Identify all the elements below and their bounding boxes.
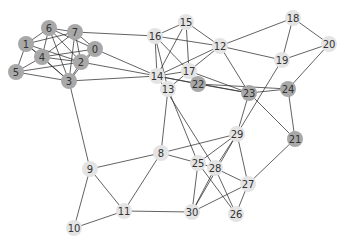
node-label: 22 <box>192 79 205 90</box>
node-3: 3 <box>61 73 77 89</box>
node-25: 25 <box>190 155 206 171</box>
node-1: 1 <box>18 36 34 52</box>
edge-13-25 <box>168 89 198 163</box>
node-label: 2 <box>78 57 84 68</box>
node-label: 0 <box>92 44 98 55</box>
node-label: 3 <box>66 76 72 87</box>
node-27: 27 <box>240 176 256 192</box>
edge-8-11 <box>124 153 161 211</box>
edge-23-21 <box>249 93 295 139</box>
node-17: 17 <box>181 63 197 79</box>
node-label: 30 <box>186 207 199 218</box>
edge-9-11 <box>90 169 124 211</box>
node-12: 12 <box>212 38 228 54</box>
node-26: 26 <box>228 206 244 222</box>
edge-2-14 <box>81 62 157 76</box>
edge-13-8 <box>161 89 168 153</box>
node-19: 19 <box>274 52 290 68</box>
node-4: 4 <box>34 49 50 65</box>
node-14: 14 <box>149 68 165 84</box>
node-label: 23 <box>243 88 256 99</box>
node-0: 0 <box>87 41 103 57</box>
node-13: 13 <box>160 81 176 97</box>
node-label: 1 <box>23 39 29 50</box>
node-30: 30 <box>184 204 200 220</box>
node-18: 18 <box>285 10 301 26</box>
node-label: 13 <box>162 84 175 95</box>
edge-12-18 <box>220 18 293 46</box>
node-label: 18 <box>287 13 300 24</box>
node-21: 21 <box>287 131 303 147</box>
node-10: 10 <box>66 220 82 236</box>
node-label: 4 <box>39 52 45 63</box>
edge-3-14 <box>69 76 157 81</box>
node-label: 25 <box>192 158 205 169</box>
node-8: 8 <box>153 145 169 161</box>
edge-21-27 <box>248 139 295 184</box>
node-label: 17 <box>183 66 196 77</box>
node-20: 20 <box>321 36 337 52</box>
node-label: 16 <box>149 31 162 42</box>
node-label: 26 <box>230 209 243 220</box>
node-label: 8 <box>158 148 164 159</box>
edge-7-16 <box>75 32 155 36</box>
edge-3-9 <box>69 81 90 169</box>
node-label: 20 <box>323 39 336 50</box>
node-label: 29 <box>231 129 244 140</box>
node-label: 7 <box>72 27 78 38</box>
node-label: 24 <box>282 84 295 95</box>
node-9: 9 <box>82 161 98 177</box>
node-15: 15 <box>178 14 194 30</box>
node-label: 28 <box>209 163 222 174</box>
edge-11-30 <box>124 211 192 212</box>
edge-8-29 <box>161 134 237 153</box>
node-label: 21 <box>289 134 302 145</box>
node-23: 23 <box>241 85 257 101</box>
node-label: 6 <box>46 23 52 34</box>
node-label: 19 <box>276 55 289 66</box>
node-label: 11 <box>118 206 131 217</box>
edges-layer <box>16 18 329 228</box>
node-label: 27 <box>242 179 255 190</box>
node-29: 29 <box>229 126 245 142</box>
network-graph: 0123456789101112131415161718192021222324… <box>0 0 345 241</box>
node-24: 24 <box>280 81 296 97</box>
node-label: 15 <box>180 17 193 28</box>
node-6: 6 <box>41 20 57 36</box>
node-label: 9 <box>87 164 93 175</box>
node-label: 10 <box>68 223 81 234</box>
edge-8-9 <box>90 153 161 169</box>
edge-9-10 <box>74 169 90 228</box>
node-label: 12 <box>214 41 227 52</box>
node-label: 14 <box>151 71 164 82</box>
node-2: 2 <box>73 54 89 70</box>
node-22: 22 <box>190 76 206 92</box>
node-label: 5 <box>13 67 19 78</box>
node-7: 7 <box>67 24 83 40</box>
nodes-layer: 0123456789101112131415161718192021222324… <box>8 10 337 236</box>
edge-0-14 <box>95 49 157 76</box>
node-28: 28 <box>207 160 223 176</box>
node-11: 11 <box>116 203 132 219</box>
node-16: 16 <box>147 28 163 44</box>
node-5: 5 <box>8 64 24 80</box>
edge-12-19 <box>220 46 282 60</box>
